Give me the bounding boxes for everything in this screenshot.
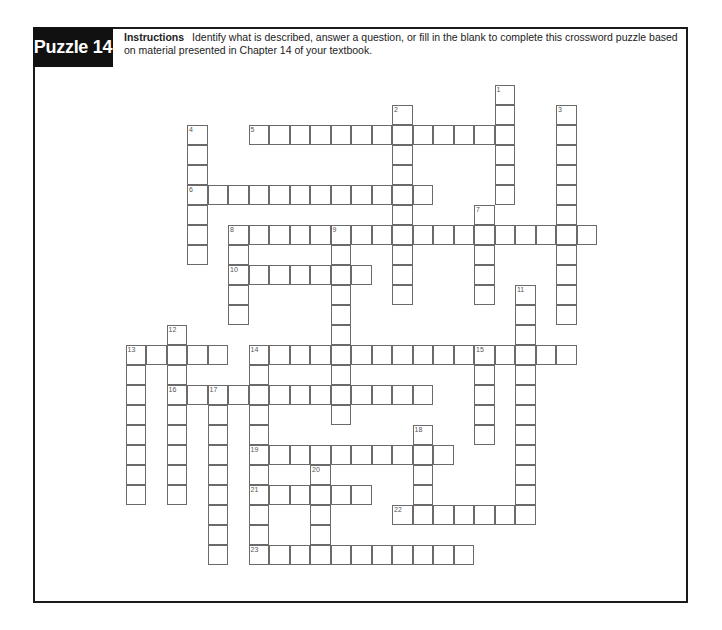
crossword-cell[interactable] (126, 385, 147, 405)
crossword-cell[interactable]: 13 (126, 345, 147, 365)
crossword-cell[interactable] (269, 125, 290, 145)
crossword-cell[interactable]: 21 (249, 485, 270, 505)
crossword-cell[interactable] (392, 285, 413, 305)
crossword-cell[interactable] (310, 345, 331, 365)
crossword-cell[interactable] (351, 545, 372, 565)
crossword-cell[interactable] (474, 245, 495, 265)
crossword-cell[interactable] (515, 325, 536, 345)
crossword-cell[interactable] (290, 185, 311, 205)
crossword-cell[interactable] (331, 365, 352, 385)
crossword-cell[interactable] (331, 445, 352, 465)
crossword-cell[interactable] (208, 485, 229, 505)
crossword-cell[interactable]: 17 (208, 385, 229, 405)
crossword-cell[interactable] (331, 185, 352, 205)
crossword-cell[interactable] (310, 485, 331, 505)
crossword-cell[interactable] (454, 545, 475, 565)
crossword-cell[interactable] (515, 385, 536, 405)
crossword-cell[interactable] (167, 485, 188, 505)
crossword-cell[interactable] (228, 385, 249, 405)
crossword-cell[interactable] (433, 345, 454, 365)
crossword-cell[interactable]: 10 (228, 265, 249, 285)
crossword-cell[interactable] (515, 345, 536, 365)
crossword-cell[interactable] (515, 465, 536, 485)
crossword-cell[interactable] (351, 385, 372, 405)
crossword-cell[interactable] (249, 505, 270, 525)
crossword-cell[interactable] (331, 345, 352, 365)
crossword-cell[interactable] (310, 545, 331, 565)
crossword-cell[interactable] (556, 145, 577, 165)
crossword-cell[interactable] (433, 445, 454, 465)
crossword-cell[interactable] (249, 425, 270, 445)
crossword-cell[interactable] (208, 425, 229, 445)
crossword-cell[interactable] (310, 385, 331, 405)
crossword-cell[interactable] (126, 485, 147, 505)
crossword-cell[interactable] (495, 185, 516, 205)
crossword-cell[interactable] (167, 465, 188, 485)
crossword-cell[interactable] (433, 505, 454, 525)
crossword-cell[interactable] (474, 225, 495, 245)
crossword-cell[interactable] (331, 265, 352, 285)
crossword-cell[interactable] (372, 445, 393, 465)
crossword-cell[interactable]: 3 (556, 105, 577, 125)
crossword-cell[interactable] (495, 225, 516, 245)
crossword-cell[interactable] (208, 545, 229, 565)
crossword-cell[interactable] (208, 525, 229, 545)
crossword-cell[interactable] (474, 385, 495, 405)
crossword-cell[interactable] (331, 125, 352, 145)
crossword-cell[interactable] (515, 405, 536, 425)
crossword-cell[interactable] (187, 385, 208, 405)
crossword-cell[interactable] (536, 225, 557, 245)
crossword-cell[interactable] (474, 365, 495, 385)
crossword-cell[interactable] (556, 265, 577, 285)
crossword-cell[interactable] (515, 505, 536, 525)
crossword-cell[interactable] (515, 365, 536, 385)
crossword-cell[interactable]: 22 (392, 505, 413, 525)
crossword-cell[interactable] (556, 165, 577, 185)
crossword-cell[interactable] (331, 485, 352, 505)
crossword-cell[interactable] (495, 345, 516, 365)
crossword-cell[interactable] (351, 485, 372, 505)
crossword-cell[interactable] (249, 265, 270, 285)
crossword-cell[interactable] (228, 245, 249, 265)
crossword-cell[interactable] (392, 145, 413, 165)
crossword-cell[interactable] (310, 445, 331, 465)
crossword-cell[interactable] (495, 105, 516, 125)
crossword-cell[interactable] (454, 505, 475, 525)
crossword-cell[interactable]: 6 (187, 185, 208, 205)
crossword-cell[interactable] (290, 265, 311, 285)
crossword-cell[interactable] (413, 345, 434, 365)
crossword-cell[interactable]: 1 (495, 85, 516, 105)
crossword-cell[interactable] (515, 225, 536, 245)
crossword-cell[interactable] (290, 345, 311, 365)
crossword-cell[interactable] (556, 285, 577, 305)
crossword-cell[interactable] (290, 545, 311, 565)
crossword-cell[interactable] (392, 225, 413, 245)
crossword-cell[interactable] (249, 405, 270, 425)
crossword-cell[interactable] (392, 185, 413, 205)
crossword-cell[interactable] (126, 365, 147, 385)
crossword-cell[interactable] (556, 125, 577, 145)
crossword-cell[interactable] (372, 345, 393, 365)
crossword-cell[interactable] (413, 185, 434, 205)
crossword-cell[interactable] (331, 385, 352, 405)
crossword-cell[interactable] (269, 385, 290, 405)
crossword-cell[interactable] (392, 125, 413, 145)
crossword-cell[interactable] (392, 385, 413, 405)
crossword-cell[interactable] (392, 205, 413, 225)
crossword-cell[interactable] (208, 505, 229, 525)
crossword-cell[interactable] (249, 385, 270, 405)
crossword-cell[interactable] (208, 185, 229, 205)
crossword-cell[interactable] (187, 345, 208, 365)
crossword-cell[interactable] (351, 265, 372, 285)
crossword-cell[interactable] (392, 545, 413, 565)
crossword-cell[interactable] (331, 405, 352, 425)
crossword-cell[interactable] (187, 225, 208, 245)
crossword-cell[interactable] (474, 405, 495, 425)
crossword-cell[interactable] (351, 185, 372, 205)
crossword-cell[interactable] (454, 345, 475, 365)
crossword-cell[interactable]: 2 (392, 105, 413, 125)
crossword-cell[interactable] (556, 305, 577, 325)
crossword-cell[interactable] (413, 385, 434, 405)
crossword-cell[interactable] (433, 125, 454, 145)
crossword-cell[interactable] (515, 305, 536, 325)
